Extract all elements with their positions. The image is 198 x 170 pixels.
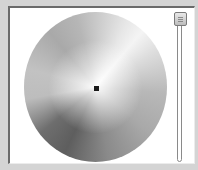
brightness-slider-track[interactable] <box>177 24 182 162</box>
grip-icon <box>178 17 183 18</box>
brightness-slider-thumb[interactable] <box>174 12 187 26</box>
grip-icon <box>178 21 183 22</box>
selection-marker[interactable] <box>94 86 99 91</box>
grip-icon <box>178 19 183 20</box>
